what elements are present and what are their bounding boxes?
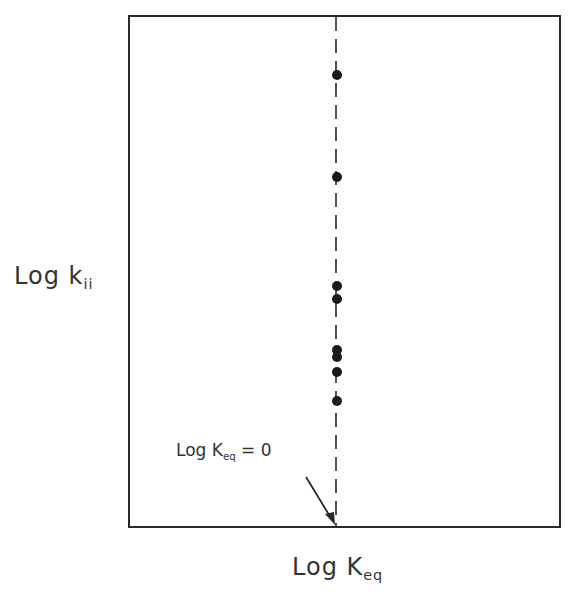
y-axis-label: Log kii [14, 262, 93, 292]
x-axis-label: Log Keq [292, 553, 383, 583]
data-point [332, 352, 342, 362]
data-point [332, 281, 342, 291]
scatter-plot [0, 0, 574, 601]
data-point [332, 367, 342, 377]
annotation-arrow [306, 477, 335, 525]
reference-line-annotation: Log Keq = 0 [176, 440, 272, 462]
data-point [332, 172, 342, 182]
data-point [332, 294, 342, 304]
data-point [332, 70, 342, 80]
data-points [332, 70, 342, 406]
data-point [332, 396, 342, 406]
